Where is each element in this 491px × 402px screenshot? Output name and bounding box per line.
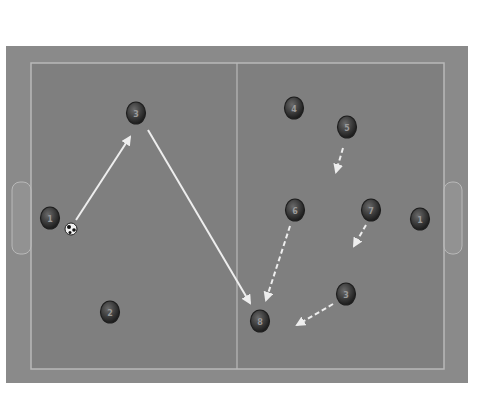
player-number: 4 [291,105,297,114]
player-p3[interactable]: 2 [101,301,120,323]
player-p7[interactable]: 7 [362,199,381,221]
player-number: 3 [343,291,349,300]
player-number: 8 [257,318,263,327]
player-number: 1 [417,216,423,225]
player-number: 1 [47,215,53,224]
player-number: 5 [344,124,350,133]
player-p5[interactable]: 5 [338,116,357,138]
tactics-board: 1324567138 [0,0,491,402]
player-p1[interactable]: 1 [41,207,60,229]
player-number: 3 [133,110,139,119]
player-number: 6 [292,207,298,216]
player-p9[interactable]: 3 [337,283,356,305]
player-number: 7 [368,207,374,216]
player-number: 2 [107,309,113,318]
goal-right [444,182,462,254]
player-p10[interactable]: 8 [251,310,270,332]
player-p2[interactable]: 3 [127,102,146,124]
player-p6[interactable]: 6 [286,199,305,221]
player-p8[interactable]: 1 [411,208,430,230]
ball-icon [65,223,77,235]
goal-left [12,182,31,254]
player-p4[interactable]: 4 [285,97,304,119]
